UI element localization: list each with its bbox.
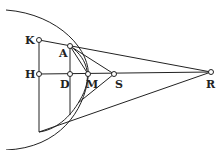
label-K: K (25, 34, 35, 47)
label-S: S (115, 78, 123, 91)
line-H-R (39, 72, 211, 74)
geometry-diagram: K A H D M S R (0, 0, 223, 150)
label-D: D (60, 78, 70, 91)
point-A (68, 44, 73, 49)
label-H: H (25, 68, 35, 81)
point-D (68, 72, 73, 77)
point-M (86, 72, 91, 77)
label-A: A (58, 47, 68, 60)
label-M: M (86, 78, 98, 91)
point-S (112, 72, 117, 77)
point-R (209, 70, 214, 75)
point-K (37, 38, 42, 43)
point-H (37, 72, 42, 77)
label-R: R (206, 78, 216, 91)
